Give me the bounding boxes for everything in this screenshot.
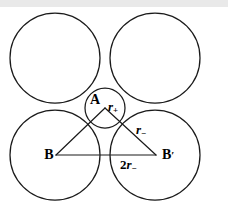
label-point-bprime-prime: ′ [171, 149, 174, 161]
figure-caption-strip [0, 212, 228, 218]
label-point-b: B [44, 147, 53, 162]
circle-packing-diagram: A r+ r− B 2r− B′ [0, 0, 228, 218]
label-point-bprime-base: B [162, 147, 171, 162]
figure-container: A r+ r− B 2r− B′ [0, 0, 228, 218]
label-radius-minus: r− [136, 122, 146, 138]
label-radius-minus-sub: − [141, 128, 146, 138]
label-radius-plus-sub: + [113, 105, 118, 115]
large-circle-top-left [10, 13, 100, 103]
large-circle-top-right [110, 13, 200, 103]
label-diameter-minus: 2r− [120, 157, 137, 173]
label-diameter-minus-sub: − [132, 163, 137, 173]
label-radius-plus: r+ [108, 99, 118, 115]
label-point-bprime: B′ [162, 147, 174, 162]
label-point-a: A [90, 92, 101, 107]
triangle-edge-a-to-b [56, 108, 105, 155]
triangle-edge-a-to-bprime [105, 108, 156, 155]
